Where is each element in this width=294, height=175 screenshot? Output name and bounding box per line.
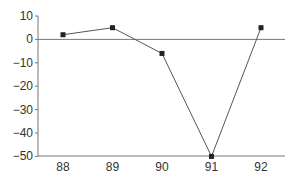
y-tick-label: −50 [13, 149, 34, 163]
data-point-marker [61, 32, 66, 37]
x-axis: 8889909192 [38, 156, 285, 174]
x-tick-label: 91 [205, 160, 219, 174]
y-tick-label: 0 [26, 32, 33, 46]
x-tick-label: 88 [56, 160, 70, 174]
x-tick-label: 92 [254, 160, 268, 174]
x-tick-label: 89 [106, 160, 120, 174]
data-point-marker [160, 51, 165, 56]
y-tick-label: −40 [13, 126, 34, 140]
line-chart: 100−10−20−30−40−50 8889909192 [0, 0, 294, 175]
data-series [61, 25, 264, 159]
y-axis: 100−10−20−30−40−50 [13, 9, 38, 163]
y-tick-label: −30 [13, 103, 34, 117]
data-point-marker [110, 25, 115, 30]
data-point-marker [209, 154, 214, 159]
series-line [63, 28, 261, 157]
y-tick-label: 10 [20, 9, 34, 23]
data-point-marker [259, 25, 264, 30]
y-tick-label: −20 [13, 79, 34, 93]
x-tick-label: 90 [155, 160, 169, 174]
y-tick-label: −10 [13, 56, 34, 70]
